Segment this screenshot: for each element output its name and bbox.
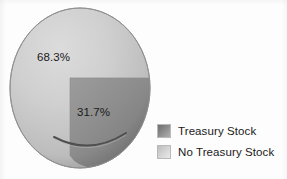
legend-swatch-treasury-stock-icon (157, 124, 171, 138)
pie-rim-shading (10, 8, 150, 168)
pie-chart: 68.3% 31.7% Treasury Stock No Treasury S… (0, 0, 287, 179)
legend-item-no-treasury-stock[interactable]: No Treasury Stock (157, 141, 285, 162)
pie-label-no-treasury-stock: 68.3% (37, 51, 70, 63)
legend-swatch-no-treasury-stock-icon (157, 145, 171, 159)
legend-label-no-treasury-stock: No Treasury Stock (178, 146, 274, 158)
pie-svg (8, 6, 154, 170)
pie-graphic: 68.3% 31.7% (8, 6, 154, 170)
legend-item-treasury-stock[interactable]: Treasury Stock (157, 120, 285, 141)
legend-label-treasury-stock: Treasury Stock (178, 125, 256, 137)
chart-legend: Treasury Stock No Treasury Stock (157, 120, 285, 162)
pie-label-treasury-stock: 31.7% (77, 106, 110, 118)
